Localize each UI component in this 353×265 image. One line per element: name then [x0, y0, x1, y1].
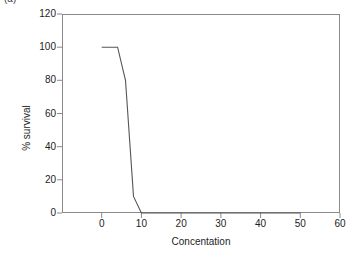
y-tick-label: 80	[26, 75, 56, 85]
x-tick-label: 10	[128, 219, 154, 229]
y-tick-label: 20	[26, 175, 56, 185]
x-axis-title: Concentation	[62, 236, 340, 248]
x-tick-label: 40	[248, 219, 274, 229]
x-tick-label: 20	[168, 219, 194, 229]
x-tick-label: 60	[327, 219, 353, 229]
figure-canvas: (a) 120 100 80 60 40 20 0 0 10 20 30 40 …	[0, 0, 353, 265]
x-axis-tick-labels: 0 10 20 30 40 50 60	[0, 219, 353, 233]
x-tick-label: 50	[287, 219, 313, 229]
x-tick-label: 0	[89, 219, 115, 229]
plot-frame	[62, 14, 340, 213]
y-tick-label: 120	[26, 9, 56, 19]
y-axis-title: % survival	[21, 93, 33, 163]
y-tick-label: 0	[26, 208, 56, 218]
y-axis-title-wrap: % survival	[12, 30, 26, 190]
y-tick-label: 100	[26, 42, 56, 52]
x-tick-label: 30	[208, 219, 234, 229]
